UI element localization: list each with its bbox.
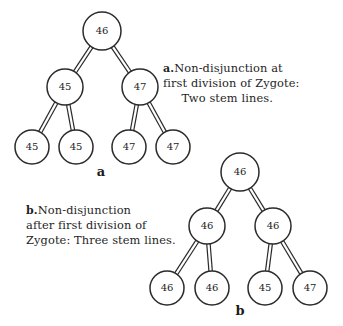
panel-letter-b: b bbox=[235, 303, 244, 318]
edge-rule bbox=[73, 45, 91, 72]
node-value-label: 46 bbox=[161, 282, 174, 293]
nodes-layer: 4645474545474746464646464547 bbox=[15, 12, 327, 305]
node-b-r[interactable]: 46 bbox=[255, 208, 291, 244]
edge-rule bbox=[111, 47, 129, 74]
edge-rule bbox=[210, 243, 212, 272]
caption-a-text-1: Non-disjunction at bbox=[174, 61, 283, 75]
figure-root: 4645474545474746464646464547 ab a.Non-di… bbox=[0, 0, 343, 326]
caption-panel-b: b.Non-disjunction after first division o… bbox=[26, 203, 176, 248]
caption-a-line-1: a.Non-disjunction at bbox=[163, 61, 300, 76]
node-value-label: 47 bbox=[134, 81, 147, 92]
caption-b-text-1: Non-disjunction bbox=[38, 203, 131, 217]
node-a-l[interactable]: 45 bbox=[47, 69, 83, 105]
node-value-label: 45 bbox=[259, 282, 272, 293]
caption-a-line-2: first division of Zygote: bbox=[163, 76, 300, 91]
node-b-l[interactable]: 46 bbox=[189, 208, 225, 244]
node-a-rl[interactable]: 47 bbox=[112, 130, 146, 164]
edge-rule bbox=[283, 240, 303, 274]
node-b-lr[interactable]: 46 bbox=[195, 271, 229, 305]
edge-rule bbox=[217, 188, 232, 212]
edge-b-2 bbox=[174, 239, 199, 275]
edge-rule bbox=[76, 47, 94, 74]
edge-rule bbox=[147, 103, 164, 134]
node-a-rr[interactable]: 47 bbox=[156, 130, 190, 164]
caption-a-marker: a. bbox=[163, 62, 174, 75]
edge-rule bbox=[177, 241, 199, 275]
caption-b-line-2: after first division of bbox=[26, 218, 176, 233]
node-value-label: 45 bbox=[59, 81, 72, 92]
edge-b-0 bbox=[214, 186, 232, 212]
edge-rule bbox=[114, 45, 132, 72]
tree-diagram-canvas: 4645474545474746464646464547 ab bbox=[0, 0, 343, 326]
node-value-label: 47 bbox=[167, 141, 180, 152]
edge-rule bbox=[38, 101, 55, 132]
caption-b-line-1: b.Non-disjunction bbox=[26, 203, 176, 218]
edge-rule bbox=[207, 243, 209, 272]
node-value-label: 46 bbox=[234, 166, 247, 177]
edge-b-3 bbox=[207, 243, 213, 272]
node-b-rr[interactable]: 47 bbox=[293, 271, 327, 305]
panel-letter-a: a bbox=[97, 164, 106, 179]
node-value-label: 45 bbox=[26, 141, 39, 152]
edge-a-4 bbox=[130, 103, 138, 131]
edge-rule bbox=[280, 241, 300, 275]
edge-rule bbox=[214, 186, 229, 210]
node-b-rl[interactable]: 45 bbox=[248, 271, 282, 305]
node-b-root[interactable]: 46 bbox=[221, 153, 259, 191]
edge-rule bbox=[265, 243, 269, 272]
edge-a-2 bbox=[38, 101, 58, 134]
edge-rule bbox=[269, 243, 273, 272]
edge-rule bbox=[41, 103, 58, 134]
node-value-label: 46 bbox=[96, 25, 109, 36]
edge-a-3 bbox=[66, 103, 74, 131]
caption-a-line-3: Two stem lines. bbox=[163, 91, 300, 106]
node-value-label: 46 bbox=[201, 220, 214, 231]
node-value-label: 47 bbox=[304, 282, 317, 293]
edge-rule bbox=[174, 239, 196, 273]
caption-b-line-3: Zygote: Three stem lines. bbox=[26, 233, 176, 248]
node-a-root[interactable]: 46 bbox=[83, 12, 121, 50]
caption-b-marker: b. bbox=[26, 204, 38, 217]
node-a-lr[interactable]: 45 bbox=[59, 130, 93, 164]
node-value-label: 47 bbox=[123, 141, 136, 152]
node-value-label: 45 bbox=[70, 141, 83, 152]
node-a-ll[interactable]: 45 bbox=[15, 130, 49, 164]
node-value-label: 46 bbox=[206, 282, 219, 293]
caption-panel-a: a.Non-disjunction at first division of Z… bbox=[163, 61, 300, 106]
edge-rule bbox=[251, 186, 266, 210]
node-b-ll[interactable]: 46 bbox=[150, 271, 184, 305]
edge-b-1 bbox=[248, 186, 266, 212]
node-a-r[interactable]: 47 bbox=[122, 69, 158, 105]
edge-rule bbox=[248, 188, 263, 212]
node-value-label: 46 bbox=[267, 220, 280, 231]
